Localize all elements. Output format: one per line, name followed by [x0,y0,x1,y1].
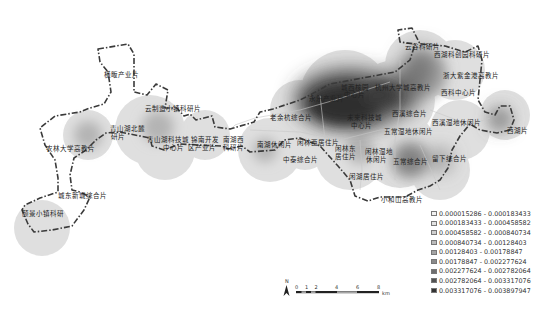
area-label: 西湖片 [507,128,528,136]
legend-label: 0.002277624 - 0.002782064 [439,267,531,275]
legend-item: 0.003317076 - 0.003897947 [431,286,549,296]
area-label: 研片 [111,134,125,142]
legend-item: 0.000015286 - 0.000183433 [431,209,549,219]
legend-label: 0.000015286 - 0.000183433 [439,210,531,218]
legend-label: 0.003317076 - 0.003897947 [439,287,531,295]
area-label: 科研片 [223,145,244,153]
legend-item: 0.002782064 - 0.003317076 [431,276,549,286]
legend-label: 0.00128403 - 0.00178847 [439,248,523,256]
svg-text:2: 2 [315,284,318,290]
legend-item: 0.00128403 - 0.00178847 [431,247,549,257]
area-label: 老余杭综合片 [270,115,312,123]
legend-item: 0.000840734 - 0.00128403 [431,238,549,248]
area-label: 小和山高教片 [381,197,423,205]
area-label: 浙大紫金港高教片 [443,73,499,81]
legend-swatch [431,278,437,283]
legend-swatch [431,240,437,245]
svg-text:6: 6 [356,284,359,290]
area-label: 休闲片 [366,157,387,165]
legend-label: 0.000183433 - 0.000458582 [439,219,531,227]
svg-text:4: 4 [335,284,338,290]
svg-text:8: 8 [377,284,380,290]
legend-swatch [431,211,437,216]
legend-swatch [431,259,437,264]
svg-text:0: 0 [295,284,298,290]
legend-label: 0.000840734 - 0.00128403 [439,239,527,247]
area-label: 云制造小镇科研片 [145,106,201,114]
legend-item: 0.000458582 - 0.000840734 [431,228,549,238]
area-label: 横畈产业片 [104,72,139,80]
area-label: 闲林西居住片 [297,140,339,148]
area-label: 五常综合片 [393,159,428,167]
area-label: 西溪综合片 [392,111,427,119]
area-label: 闲湖居住片 [349,174,384,182]
legend-swatch [431,230,437,235]
legend-swatch [431,221,437,226]
area-label: 西湖科创园科研片 [434,52,490,60]
area-label: 农林大学高教片 [46,146,95,154]
area-label: 西溪湿地休闲片 [432,120,481,128]
legend-swatch [431,288,437,293]
area-label: 西科中心片 [441,90,476,98]
legend-item: 0.002277624 - 0.002782064 [431,267,549,277]
area-label: 居住片 [335,154,356,162]
svg-text:N: N [285,278,289,284]
area-label: 区产业片 [188,145,216,153]
legend-swatch [431,269,437,274]
legend-label: 0.002782064 - 0.003317076 [439,277,531,285]
area-label: 中心片 [344,92,365,100]
north-arrow-icon: N [284,278,290,296]
legend-item: 0.000183433 - 0.000458582 [431,219,549,229]
legend: 0.000015286 - 0.000183433 0.000183433 - … [431,209,549,295]
area-label: 五常湿地休闲片 [384,129,433,137]
area-label: 中泰综合片 [283,157,318,165]
area-label: 中心片 [163,145,184,153]
area-label: 留下综合片 [432,156,467,164]
svg-text:km: km [382,290,390,296]
area-label: 永乐产业片 [309,96,344,104]
area-label: 杭州大学城高教片 [375,85,431,93]
svg-text:1: 1 [305,284,308,290]
legend-item: 0.00178847 - 0.002277624 [431,257,549,267]
area-label: 中心片 [351,123,372,131]
legend-swatch [431,250,437,255]
area-label: 南湖休闲片 [257,142,292,150]
legend-label: 0.000458582 - 0.000840734 [439,229,531,237]
area-label: 城东新城综合片 [58,193,107,201]
scale-bar: N 0 1 2 4 6 8 km [282,275,412,299]
legend-label: 0.00178847 - 0.002277624 [439,258,527,266]
area-label: 颐景小镇科研 [22,211,64,219]
